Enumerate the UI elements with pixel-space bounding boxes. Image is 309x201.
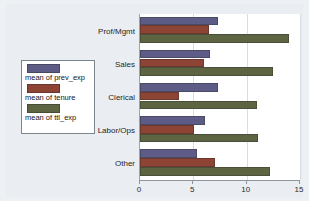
- bar: [140, 25, 209, 34]
- bar: [140, 116, 205, 125]
- legend-swatch-ttl-exp: [27, 104, 60, 113]
- gridline-15: [300, 14, 301, 180]
- bar: [140, 92, 179, 101]
- x-axis-line: [139, 180, 299, 181]
- y-axis-labels: Prof/MgmtSalesClericalLabor/OpsOther: [66, 14, 135, 180]
- bar: [140, 50, 210, 59]
- bar-group: [140, 147, 300, 180]
- x-axis-tick: [192, 180, 193, 184]
- x-axis-tick: [299, 180, 300, 184]
- y-axis-label: Sales: [115, 59, 135, 68]
- bar-group: [140, 47, 300, 80]
- x-axis-tick: [139, 180, 140, 184]
- y-axis-label: Other: [115, 159, 135, 168]
- bar-group: [140, 80, 300, 113]
- x-axis-tick-label: 0: [137, 185, 141, 194]
- bar: [140, 17, 218, 26]
- legend-swatch-prev-exp: [27, 64, 60, 73]
- bar: [140, 59, 204, 68]
- bar: [140, 158, 215, 167]
- x-axis-tick-label: 5: [190, 185, 194, 194]
- x-axis-tick-label: 10: [241, 185, 250, 194]
- bar: [140, 167, 270, 176]
- y-axis-label: Labor/Ops: [98, 126, 135, 135]
- chart-screenshot: mean of prev_exp mean of tenure mean of …: [0, 0, 309, 201]
- y-axis-label: Prof/Mgmt: [98, 26, 135, 35]
- bar: [140, 134, 258, 143]
- y-axis-label: Clerical: [108, 93, 135, 102]
- bar: [140, 101, 257, 110]
- bar-group: [140, 114, 300, 147]
- x-axis-tick: [246, 180, 247, 184]
- bar: [140, 67, 273, 76]
- bar: [140, 34, 289, 43]
- bar: [140, 83, 218, 92]
- x-axis-tick-label: 15: [295, 185, 304, 194]
- graph-region: mean of prev_exp mean of tenure mean of …: [6, 4, 303, 197]
- bar: [140, 125, 194, 134]
- legend-swatch-tenure: [27, 84, 60, 93]
- plot-area: [139, 14, 300, 180]
- bar-group: [140, 14, 300, 47]
- bar: [140, 149, 197, 158]
